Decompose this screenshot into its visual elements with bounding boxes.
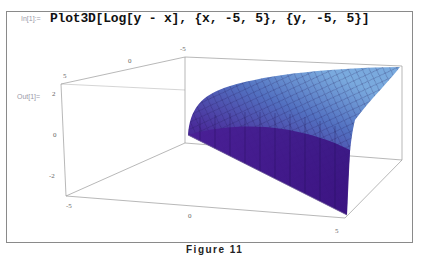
z-tick-neg2: -2 — [49, 172, 55, 180]
z-tick-0: 0 — [53, 131, 57, 139]
x-tick-5: 5 — [335, 227, 339, 235]
z-tick-2: 2 — [52, 90, 56, 98]
x-tick-neg5: -5 — [66, 202, 72, 210]
x-tick-0: 0 — [188, 212, 192, 220]
y-tick-5: 5 — [63, 72, 67, 80]
y-tick-neg5: -5 — [180, 45, 186, 53]
figure-caption: Figure 11 — [186, 244, 243, 255]
y-tick-0: 0 — [128, 57, 132, 65]
